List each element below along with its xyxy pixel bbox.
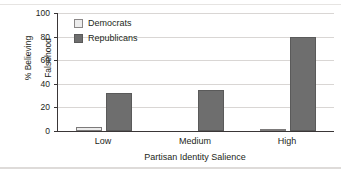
chart-title-clipped xyxy=(0,0,341,5)
y-tick-mark xyxy=(54,37,58,38)
y-tick-label: 20 xyxy=(41,102,50,112)
x-tick-label-medium: Medium xyxy=(179,136,211,146)
bar-high-republicans xyxy=(290,37,316,131)
y-tick-mark xyxy=(54,107,58,108)
y-tick-label: 0 xyxy=(45,126,50,136)
bar-low-republicans xyxy=(106,93,132,131)
x-tick-label-low: Low xyxy=(95,136,112,146)
chart-legend: Democrats Republicans xyxy=(74,17,138,47)
bottom-edge-rule xyxy=(0,167,341,169)
bar-high-democrats xyxy=(260,129,286,131)
bar-medium-republicans xyxy=(198,90,224,131)
x-axis-title: Partisan Identity Salience xyxy=(57,152,333,162)
dark-swatch-icon xyxy=(74,34,83,43)
legend-item-democrats: Democrats xyxy=(74,17,138,30)
x-axis-category-labels: Low Medium High xyxy=(57,136,333,150)
bar-chart-figure: % Believing Falsehood 0 20 40 60 80 100 … xyxy=(0,0,341,169)
light-swatch-icon xyxy=(74,19,83,28)
y-tick-mark xyxy=(54,60,58,61)
y-tick-mark xyxy=(54,131,58,132)
y-tick-label: 60 xyxy=(41,55,50,65)
y-tick-label: 40 xyxy=(41,79,50,89)
y-tick-label: 100 xyxy=(36,8,50,18)
bar-low-democrats xyxy=(76,127,102,131)
y-tick-label: 80 xyxy=(41,32,50,42)
y-tick-mark xyxy=(54,84,58,85)
legend-label-democrats: Democrats xyxy=(88,18,132,29)
x-tick-label-high: High xyxy=(278,136,297,146)
y-axis-tick-labels: 0 20 40 60 80 100 xyxy=(0,13,50,131)
legend-item-republicans: Republicans xyxy=(74,32,138,45)
legend-label-republicans: Republicans xyxy=(88,33,138,44)
gridline-100 xyxy=(58,13,334,14)
y-tick-mark xyxy=(54,13,58,14)
